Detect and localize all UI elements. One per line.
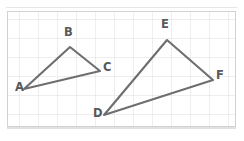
geometry-figure: A B C D E F [0, 0, 244, 141]
vertex-label-d: D [93, 108, 103, 120]
figure-canvas [0, 0, 244, 141]
vertex-label-f: F [216, 70, 224, 82]
vertex-label-a: A [15, 82, 24, 94]
vertex-label-c: C [103, 62, 111, 74]
grid-panel-shadow [7, 127, 236, 129]
top-rule [6, 7, 237, 8]
vertex-label-e: E [161, 19, 169, 31]
vertex-label-b: B [64, 27, 73, 39]
